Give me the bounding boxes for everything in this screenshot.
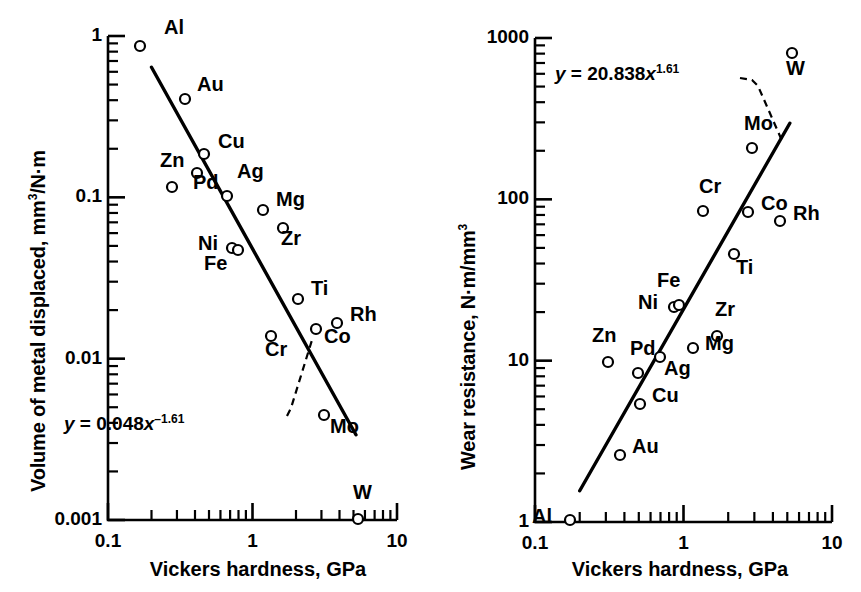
data-point-label-mo: Mo xyxy=(330,416,359,436)
chart-panel-right: Wear resistance, N·m/mm3 Vickers hardnes… xyxy=(430,0,860,592)
data-point-label-au: Au xyxy=(197,74,224,94)
data-point-label-w: W xyxy=(353,482,372,502)
left-y-label-main: Volume of metal displaced, mm xyxy=(27,200,49,492)
data-point-label-ti: Ti xyxy=(736,257,753,277)
x-tick-label: 1 xyxy=(649,532,719,554)
left-fit-equation: y = 0.048x–1.61 xyxy=(64,412,184,435)
right-x-axis-label: Vickers hardness, GPa xyxy=(530,558,830,581)
right-eq-coef: = 20.838 xyxy=(566,63,646,84)
y-tick-label: 0.01 xyxy=(65,347,102,369)
left-eq-y: y xyxy=(64,413,75,434)
right-eq-x: x xyxy=(645,63,656,84)
data-point-label-w: W xyxy=(786,58,805,78)
data-point-label-ni: Ni xyxy=(198,233,218,253)
data-point-label-mg: Mg xyxy=(276,189,305,209)
y-tick-label: 1 xyxy=(91,24,102,46)
x-tick-label: 10 xyxy=(797,532,861,554)
data-point-label-au: Au xyxy=(632,436,659,456)
figure-root: Volume of metal displaced, mm3/N·m Vicke… xyxy=(0,0,861,592)
data-point-label-zn: Zn xyxy=(160,150,184,170)
x-tick-label: 0.1 xyxy=(73,530,143,552)
y-tick-label: 1 xyxy=(518,510,529,532)
data-point-label-fe: Fe xyxy=(657,270,680,290)
data-point-label-ni: Ni xyxy=(638,292,658,312)
right-eq-exp: 1.61 xyxy=(656,62,679,76)
left-y-label-sup: 3 xyxy=(26,194,40,200)
left-data-points xyxy=(135,41,363,524)
data-point-label-fe: Fe xyxy=(204,253,227,273)
data-point-label-rh: Rh xyxy=(350,304,377,324)
right-y-label-sup: 3 xyxy=(456,224,470,230)
left-y-label-tail: /N·m xyxy=(27,150,49,194)
x-tick-label: 0.1 xyxy=(500,532,570,554)
right-y-label-main: Wear resistance, N·m/mm xyxy=(457,230,479,470)
left-x-axis-label: Vickers hardness, GPa xyxy=(108,558,408,581)
data-point-label-zr: Zr xyxy=(715,299,735,319)
left-y-axis-label: Volume of metal displaced, mm3/N·m xyxy=(26,150,50,492)
y-tick-label: 1000 xyxy=(487,26,529,48)
left-fit-line xyxy=(151,67,355,435)
data-point-label-co: Co xyxy=(324,326,351,346)
right-y-axis-label: Wear resistance, N·m/mm3 xyxy=(456,224,480,470)
data-point-label-cu: Cu xyxy=(218,131,245,151)
right-eq-y: y xyxy=(555,63,566,84)
data-point-label-al: Al xyxy=(532,506,552,526)
y-tick-label: 100 xyxy=(497,187,529,209)
right-fit-line xyxy=(580,78,790,491)
chart-panel-left: Volume of metal displaced, mm3/N·m Vicke… xyxy=(0,0,430,592)
data-point-label-zr: Zr xyxy=(281,228,301,248)
left-eq-exp: –1.61 xyxy=(154,412,184,426)
data-point-label-al: Al xyxy=(164,17,184,37)
data-point-label-zn: Zn xyxy=(592,325,616,345)
x-tick-label: 10 xyxy=(362,530,432,552)
x-tick-label: 1 xyxy=(218,530,288,552)
data-point-label-cu: Cu xyxy=(652,385,679,405)
left-axes xyxy=(108,36,397,520)
left-eq-coef: = 0.048 xyxy=(75,413,144,434)
y-tick-label: 10 xyxy=(508,349,529,371)
data-point-label-cr: Cr xyxy=(265,339,287,359)
left-eq-x: x xyxy=(144,413,155,434)
data-point-label-ag: Ag xyxy=(664,358,691,378)
data-point-label-rh: Rh xyxy=(793,203,820,223)
y-tick-label: 0.001 xyxy=(54,508,102,530)
right-axes xyxy=(535,38,832,522)
data-point-label-ti: Ti xyxy=(311,278,328,298)
data-point-label-pd: Pd xyxy=(193,172,219,192)
right-fit-equation: y = 20.838x1.61 xyxy=(555,62,679,85)
data-point-label-pd: Pd xyxy=(630,338,656,358)
data-point-label-cr: Cr xyxy=(699,176,721,196)
data-point-label-co: Co xyxy=(761,193,788,213)
y-tick-label: 0.1 xyxy=(76,185,102,207)
data-point-label-mg: Mg xyxy=(705,333,734,353)
data-point-label-ag: Ag xyxy=(237,161,264,181)
data-point-label-mo: Mo xyxy=(744,113,773,133)
